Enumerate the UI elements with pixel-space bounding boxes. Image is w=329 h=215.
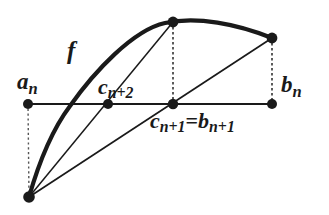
point-curve-right-end xyxy=(267,33,278,44)
label-a-n: an xyxy=(17,70,38,97)
label-c-n-plus-1-equals-b-n-plus-1: cn+1=bn+1 xyxy=(150,110,235,135)
label-a-n-base: a xyxy=(17,69,29,94)
label-a-n-subscript: n xyxy=(29,79,38,98)
point-b-n xyxy=(267,99,277,109)
point-curve-bottom-left xyxy=(23,191,35,203)
point-a-n xyxy=(23,99,33,109)
bisection-diagram: f an bn cn+2 cn+1=bn+1 xyxy=(0,0,329,215)
label-b-n-subscript: n xyxy=(293,82,302,101)
point-curve-peak xyxy=(168,17,179,28)
label-function-f: f xyxy=(67,38,75,63)
label-b-n-plus-1-base: b xyxy=(198,108,209,133)
label-c-n-plus-1-subscript: n+1 xyxy=(160,118,186,135)
label-equals-sign: = xyxy=(186,108,199,133)
label-function-f-text: f xyxy=(67,37,75,64)
label-b-n: bn xyxy=(281,73,302,100)
dotted-vertical-left xyxy=(28,104,29,197)
diagram-canvas xyxy=(0,0,329,215)
label-c-n-plus-2-subscript: n+2 xyxy=(108,84,134,101)
label-b-n-plus-1-subscript: n+1 xyxy=(209,118,235,135)
label-c-n-plus-2: cn+2 xyxy=(98,76,134,101)
label-b-n-base: b xyxy=(281,72,293,97)
label-c-n-plus-1-base: c xyxy=(150,108,160,133)
label-c-n-plus-2-base: c xyxy=(98,74,108,99)
point-c-n-plus-1 xyxy=(168,99,178,109)
